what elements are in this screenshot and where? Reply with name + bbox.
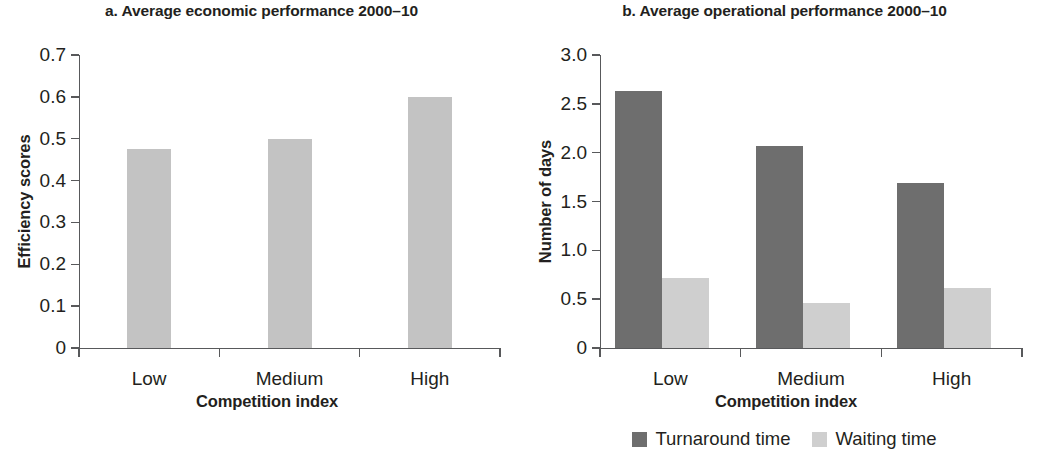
panel-a-title: a. Average economic performance 2000–10 (0, 2, 523, 20)
panel-b-y-tick-label: 2.5 (561, 93, 587, 115)
panel-b-y-tick-label: 0.5 (561, 288, 587, 310)
panel-b-y-tick (592, 103, 600, 104)
panel-a-y-tick (71, 96, 79, 97)
panel-a-y-tick (71, 180, 79, 181)
panel-b-operational-performance: b. Average operational performance 2000–… (523, 0, 1046, 458)
panel-b-category-label-medium: Medium (777, 368, 845, 390)
panel-a-y-tick (71, 305, 79, 306)
panel-a-y-tick-label: 0.6 (40, 86, 66, 108)
bar-a-high-efficiency-scores (408, 97, 452, 348)
panel-b-x-tick (740, 348, 741, 357)
panel-a-y-axis-label: Efficiency scores (13, 55, 35, 348)
bar-b-low-waiting-time (662, 278, 709, 348)
panel-a-y-tick (71, 138, 79, 139)
panel-b-y-tick (592, 201, 600, 202)
bar-b-medium-waiting-time (803, 303, 850, 348)
panel-b-category-label-high: High (932, 368, 971, 390)
panel-a-economic-performance: a. Average economic performance 2000–10 … (0, 0, 523, 458)
legend-swatch-icon (632, 432, 647, 447)
bar-b-low-turnaround-time (615, 91, 662, 348)
legend-item-turnaround-time[interactable]: Turnaround time (632, 428, 790, 450)
panel-b-x-tick (1021, 348, 1022, 357)
panel-a-plot-area: 00.10.20.30.40.50.60.7LowMediumHigh (79, 55, 500, 348)
two-panel-bar-chart-figure: a. Average economic performance 2000–10 … (0, 0, 1046, 458)
legend-swatch-icon (812, 432, 827, 447)
bar-b-medium-turnaround-time (756, 146, 803, 348)
panel-a-y-tick (71, 264, 79, 265)
panel-b-y-tick-label: 1.5 (561, 191, 587, 213)
panel-b-y-tick-label: 0 (576, 337, 587, 359)
panel-a-x-tick (219, 348, 220, 357)
panel-b-x-tick (599, 348, 600, 357)
panel-a-x-tick (78, 348, 79, 357)
panel-a-category-label-high: High (410, 368, 449, 390)
panel-b-y-axis-label: Number of days (534, 55, 556, 348)
panel-a-y-tick-label: 0.7 (40, 44, 66, 66)
panel-b-title: b. Average operational performance 2000–… (523, 2, 1046, 20)
panel-a-x-tick (359, 348, 360, 357)
panel-b-y-tick (592, 54, 600, 55)
panel-b-x-tick (881, 348, 882, 357)
legend-item-waiting-time[interactable]: Waiting time (812, 428, 936, 450)
bar-a-low-efficiency-scores (127, 149, 171, 348)
panel-a-y-tick-label: 0 (55, 337, 66, 359)
panel-b-y-tick-label: 2.0 (561, 142, 587, 164)
panel-a-y-tick (71, 54, 79, 55)
panel-b-category-label-low: Low (653, 368, 688, 390)
panel-b-y-tick (592, 250, 600, 251)
panel-b-y-tick (592, 298, 600, 299)
panel-a-y-tick-label: 0.4 (40, 170, 66, 192)
panel-b-x-axis-label: Competition index (551, 392, 1021, 411)
panel-a-y-tick-label: 0.1 (40, 295, 66, 317)
bar-b-high-waiting-time (944, 288, 991, 348)
panel-b-plot-area: 00.51.01.52.02.53.0LowMediumHigh (600, 55, 1022, 348)
panel-b-y-tick-label: 3.0 (561, 44, 587, 66)
panel-a-y-tick (71, 222, 79, 223)
panel-a-y-tick-label: 0.2 (40, 253, 66, 275)
legend-label: Waiting time (835, 428, 936, 450)
panel-b-y-tick (592, 152, 600, 153)
panel-a-category-label-low: Low (132, 368, 167, 390)
panel-a-y-tick-label: 0.5 (40, 128, 66, 150)
panel-b-legend: Turnaround timeWaiting time (523, 428, 1046, 450)
panel-a-x-tick (499, 348, 500, 357)
legend-label: Turnaround time (655, 428, 790, 450)
bar-b-high-turnaround-time (897, 183, 944, 348)
panel-a-category-label-medium: Medium (256, 368, 324, 390)
panel-a-y-tick-label: 0.3 (40, 211, 66, 233)
bar-a-medium-efficiency-scores (268, 139, 312, 348)
panel-b-y-tick-label: 1.0 (561, 239, 587, 261)
panel-a-x-axis-label: Competition index (32, 392, 502, 411)
panel-a-y-axis-line (79, 55, 80, 348)
